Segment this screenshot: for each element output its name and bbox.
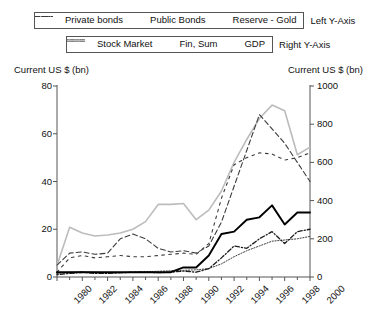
right-axis-tick-label: 1000 bbox=[317, 80, 338, 91]
right-axis-tick-label: 200 bbox=[317, 233, 333, 244]
chart-container: Private bonds Public Bonds Reserve - Gol… bbox=[0, 0, 384, 320]
right-axis-tick-label: 600 bbox=[317, 156, 333, 167]
right-axis-tick-label: 0 bbox=[317, 271, 322, 282]
left-axis-tick-label: 20 bbox=[18, 223, 52, 234]
left-axis-tick-label: 0 bbox=[18, 271, 52, 282]
left-axis-tick-label: 80 bbox=[18, 80, 52, 91]
right-axis-tick-label: 400 bbox=[317, 195, 333, 206]
left-axis-tick-label: 40 bbox=[18, 176, 52, 187]
series-line-fin-sum bbox=[57, 205, 310, 272]
series-line-reserve-gold bbox=[57, 115, 310, 265]
left-axis-tick-label: 60 bbox=[18, 128, 52, 139]
right-axis-tick-label: 800 bbox=[317, 118, 333, 129]
